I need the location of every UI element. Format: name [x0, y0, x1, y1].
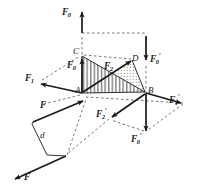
label-F1prime: F1': [169, 96, 181, 106]
force-vectors: [15, 12, 181, 179]
point-label-B: B: [148, 86, 154, 95]
label-F1: F1: [25, 74, 35, 84]
dash-plane-bottom-left: [67, 119, 109, 154]
vector-Fprime: [15, 156, 66, 179]
construction-lines: [42, 33, 183, 155]
dimension-line-d: [32, 122, 66, 156]
label-F0-top: F0: [62, 8, 72, 18]
label-F0-at-A: F0: [67, 61, 77, 71]
label-F2prime: F2': [96, 110, 108, 120]
label-F0prime-upper: F0': [150, 55, 162, 65]
dash-plane-right-edge: [148, 104, 183, 130]
force-couple-diagram: F0 F0 F0' F0' F1 F1' F2 F2' F F' A B C D…: [0, 0, 197, 192]
label-F: F: [40, 101, 46, 111]
moment-arm-d: [32, 122, 66, 156]
point-label-D: D: [132, 54, 139, 63]
dash-plane-bottom-right: [111, 120, 144, 131]
vector-F2prime: [112, 94, 145, 117]
dash-C-D: [84, 55, 131, 59]
dash-A-lower-left: [44, 95, 80, 104]
point-label-C: C: [73, 47, 79, 56]
label-Fprime: F': [24, 173, 32, 183]
point-label-A: A: [75, 86, 81, 95]
label-F2: F2: [104, 62, 114, 72]
label-F0prime-lower: F0': [131, 135, 143, 145]
diagram-canvas: [0, 0, 197, 192]
label-moment-arm-d: d: [40, 131, 45, 140]
